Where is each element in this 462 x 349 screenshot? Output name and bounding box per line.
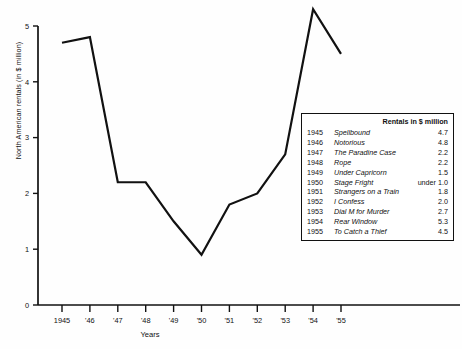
chart-container: 012345 1945'46'47'48'49'50'51'52'53'54'5… [0, 0, 462, 349]
legend-header-row: Rentals in $ million [307, 117, 448, 128]
legend-year: 1955 [307, 227, 334, 237]
legend-film-title: Notorious [334, 138, 402, 148]
x-tick-label: '48 [141, 316, 151, 325]
legend-rental-value: 4.8 [402, 138, 448, 148]
legend-rental-value: 2.7 [402, 207, 448, 217]
y-tick-label: 1 [25, 245, 29, 254]
legend-year: 1950 [307, 177, 334, 187]
y-tick-label: 2 [25, 189, 29, 198]
x-tick-label: '47 [113, 316, 123, 325]
x-tick-label: '49 [169, 316, 179, 325]
legend-film-title: To Catch a Thief [334, 227, 402, 237]
legend-year: 1952 [307, 197, 334, 207]
x-axis-ticks [62, 305, 341, 312]
legend-table: Rentals in $ million 1945Spellbound4.719… [301, 113, 454, 241]
x-tick-label: '50 [197, 316, 207, 325]
legend-row: 1950Stage Frightunder 1.0 [307, 177, 448, 187]
x-tick-label: '46 [85, 316, 95, 325]
x-axis-tick-labels: 1945'46'47'48'49'50'51'52'53'54'55 [54, 316, 346, 325]
x-axis-label: Years [0, 330, 300, 339]
legend-year: 1948 [307, 158, 334, 168]
x-tick-label: '53 [280, 316, 290, 325]
x-tick-label: '52 [252, 316, 262, 325]
x-tick-label: '55 [336, 316, 346, 325]
legend-table-grid: Rentals in $ million 1945Spellbound4.719… [307, 117, 448, 236]
legend-film-title: Spellbound [334, 128, 402, 138]
legend-year: 1951 [307, 187, 334, 197]
legend-year: 1945 [307, 128, 334, 138]
y-tick-label: 3 [25, 133, 29, 142]
legend-rental-value: 4.5 [402, 227, 448, 237]
legend-year: 1946 [307, 138, 334, 148]
legend-film-title: I Confess [334, 197, 402, 207]
legend-rental-value: 2.0 [402, 197, 448, 207]
legend-row: 1954Rear Window5.3 [307, 217, 448, 227]
legend-row: 1953Dial M for Murder2.7 [307, 207, 448, 217]
y-tick-label: 0 [25, 301, 29, 310]
legend-rental-value: 5.3 [402, 217, 448, 227]
y-tick-label: 5 [25, 22, 29, 31]
legend-rental-value: 4.7 [402, 128, 448, 138]
legend-row: 1946Notorious4.8 [307, 138, 448, 148]
x-tick-label: '54 [308, 316, 318, 325]
y-axis-tick-labels: 012345 [25, 22, 29, 310]
legend-year: 1953 [307, 207, 334, 217]
x-tick-label: '51 [225, 316, 235, 325]
legend-rental-value: under 1.0 [402, 177, 448, 187]
legend-rental-value: 2.2 [402, 148, 448, 158]
legend-film-title: Rope [334, 158, 402, 168]
legend-header-label: Rentals in $ million [307, 117, 448, 128]
legend-row: 1951Strangers on a Train1.8 [307, 187, 448, 197]
y-axis-label: North American rentals (in $ million) [14, 1, 23, 201]
legend-film-title: Dial M for Murder [334, 207, 402, 217]
legend-row: 1955To Catch a Thief4.5 [307, 227, 448, 237]
y-tick-label: 4 [25, 78, 29, 87]
data-series-line [62, 9, 341, 255]
legend-year: 1949 [307, 168, 334, 178]
legend-row: 1952I Confess2.0 [307, 197, 448, 207]
legend-film-title: Stage Fright [334, 177, 402, 187]
x-tick-label: 1945 [54, 316, 70, 325]
legend-row: 1949Under Capricorn1.5 [307, 168, 448, 178]
legend-row: 1945Spellbound4.7 [307, 128, 448, 138]
legend-row: 1947The Paradine Case2.2 [307, 148, 448, 158]
legend-film-title: The Paradine Case [334, 148, 402, 158]
legend-rental-value: 1.5 [402, 168, 448, 178]
legend-film-title: Under Capricorn [334, 168, 402, 178]
legend-rental-value: 1.8 [402, 187, 448, 197]
legend-film-title: Rear Window [334, 217, 402, 227]
legend-row: 1948Rope2.2 [307, 158, 448, 168]
legend-year: 1954 [307, 217, 334, 227]
legend-rows: 1945Spellbound4.71946Notorious4.81947The… [307, 128, 448, 236]
legend-year: 1947 [307, 148, 334, 158]
legend-film-title: Strangers on a Train [334, 187, 402, 197]
legend-rental-value: 2.2 [402, 158, 448, 168]
